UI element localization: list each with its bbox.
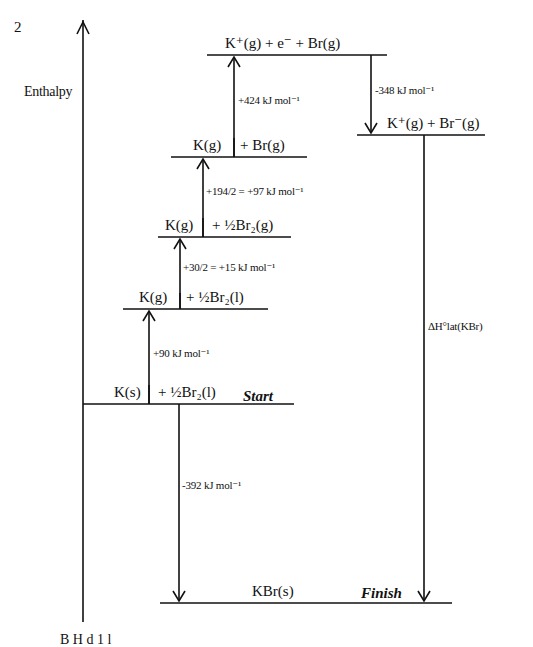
- level4-left-species: K(g): [193, 138, 221, 153]
- axis-label-enthalpy: Enthalpy: [24, 85, 72, 99]
- level2-right-species: + ½Br₂(l): [186, 290, 244, 305]
- level-ions-electron-species: K⁺(g) + e⁻ + Br(g): [225, 36, 340, 51]
- footer-partial-text: B H d 1 l: [60, 633, 111, 647]
- level3-left-species: K(g): [165, 218, 193, 233]
- start-right-species: + ½Br₂(l): [158, 385, 216, 400]
- start-tag: Start: [243, 389, 273, 404]
- finish-tag: Finish: [361, 586, 402, 601]
- level4-right-species: + Br(g): [240, 138, 285, 153]
- level2-left-species: K(g): [139, 290, 167, 305]
- level-ion-pair-species: K⁺(g) + Br⁻(g): [387, 116, 480, 131]
- start-left-species: K(s): [114, 385, 141, 400]
- question-number: 2: [14, 20, 22, 35]
- step-atomisation-k: +90 kJ mol⁻¹: [153, 348, 209, 359]
- step-ionisation-k: +424 kJ mol⁻¹: [238, 95, 300, 106]
- step-lattice-enthalpy: ΔH°lat(KBr): [428, 321, 482, 332]
- step-atomisation-br: +194/2 = +97 kJ mol⁻¹: [206, 186, 303, 197]
- step-vaporisation-br: +30/2 = +15 kJ mol⁻¹: [183, 262, 275, 273]
- step-electron-affinity-br: -348 kJ mol⁻¹: [375, 85, 434, 96]
- step-formation-kbr: -392 kJ mol⁻¹: [182, 480, 241, 491]
- level3-right-species: + ½Br₂(g): [212, 218, 273, 233]
- finish-species: KBr(s): [252, 584, 294, 599]
